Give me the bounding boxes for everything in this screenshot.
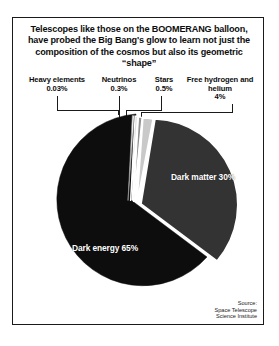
infographic-panel: Telescopes like those on the BOOMERANG b… bbox=[12, 17, 264, 325]
page-title: Telescopes like those on the BOOMERANG b… bbox=[21, 24, 257, 69]
source-line-3: Science Institute bbox=[165, 313, 257, 320]
callout-neutrinos-label: Neutrinos bbox=[102, 75, 137, 84]
pie-chart-svg bbox=[19, 106, 259, 291]
callout-heavy-elements: Heavy elements 0.03% bbox=[26, 76, 88, 93]
callout-free-hydrogen-value: 4% bbox=[185, 93, 255, 102]
callout-free-hydrogen: Free hydrogen and helium 4% bbox=[185, 76, 255, 102]
pie-label-dark-matter-value: 30% bbox=[219, 172, 235, 182]
callout-heavy-elements-value: 0.03% bbox=[26, 85, 88, 94]
callout-stars: Stars 0.5% bbox=[147, 76, 181, 93]
pie-chart: Dark matter 30% Dark energy 65% bbox=[19, 106, 259, 291]
callout-heavy-elements-label: Heavy elements bbox=[29, 75, 85, 84]
callout-neutrinos-value: 0.3% bbox=[92, 85, 146, 94]
pie-label-dark-energy-value: 65% bbox=[122, 243, 138, 253]
pie-label-dark-energy-text: Dark energy bbox=[72, 243, 119, 253]
pie-label-dark-matter: Dark matter 30% bbox=[157, 172, 249, 182]
source-credit: Source: Space Telescope Science Institut… bbox=[165, 300, 257, 320]
source-line-1: Source: bbox=[165, 300, 257, 307]
callout-stars-value: 0.5% bbox=[147, 85, 181, 94]
callout-stars-label: Stars bbox=[155, 75, 174, 84]
pie-label-dark-energy: Dark energy 65% bbox=[53, 243, 157, 253]
callout-neutrinos: Neutrinos 0.3% bbox=[92, 76, 146, 93]
pie-label-dark-matter-text: Dark matter bbox=[171, 172, 216, 182]
source-line-2: Space Telescope bbox=[165, 307, 257, 314]
callout-free-hydrogen-label: Free hydrogen and helium bbox=[187, 75, 254, 93]
